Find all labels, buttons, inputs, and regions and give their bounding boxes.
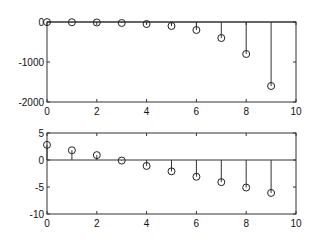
x-tick-label: 0 [44, 106, 50, 117]
x-tick-label: 2 [94, 106, 100, 117]
y-tick-label: -10 [30, 209, 45, 220]
x-tick-label: 8 [243, 106, 249, 117]
y-tick-label: -2000 [18, 97, 44, 108]
axes-frame [47, 22, 296, 102]
subplot-2: 024681050-5-10 [30, 128, 302, 229]
x-tick-label: 6 [194, 106, 200, 117]
x-tick-label: 10 [290, 218, 302, 229]
axes-frame [47, 133, 296, 214]
x-tick-label: 4 [144, 218, 150, 229]
y-tick-label: 0 [38, 155, 44, 166]
stem-plot-figure: 02468100-1000-2000024681050-5-10 [0, 0, 320, 244]
y-tick-label: -1000 [18, 57, 44, 68]
x-tick-label: 8 [243, 218, 249, 229]
subplot-1: 02468100-1000-2000 [18, 17, 302, 117]
x-tick-label: 6 [194, 218, 200, 229]
x-tick-label: 2 [94, 218, 100, 229]
x-tick-label: 4 [144, 106, 150, 117]
y-tick-label: 5 [38, 128, 44, 139]
x-tick-label: 10 [290, 106, 302, 117]
x-tick-label: 0 [44, 218, 50, 229]
y-tick-label: -5 [35, 182, 44, 193]
